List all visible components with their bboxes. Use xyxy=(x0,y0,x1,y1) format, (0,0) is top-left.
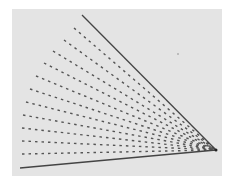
vertex-point xyxy=(215,149,218,152)
dashed-ray xyxy=(30,89,216,150)
stray-dot xyxy=(177,53,179,55)
dashed-ray xyxy=(22,150,216,154)
dashed-ray xyxy=(22,141,216,150)
dashed-ray xyxy=(74,28,216,150)
bottom-boundary-line xyxy=(20,150,216,168)
dashed-ray xyxy=(22,128,216,150)
dashed-ray xyxy=(36,76,216,150)
dashed-ray xyxy=(64,40,216,150)
dashed-ray xyxy=(53,51,216,150)
diagram xyxy=(0,0,232,183)
ray-fan-diagram xyxy=(0,0,232,183)
